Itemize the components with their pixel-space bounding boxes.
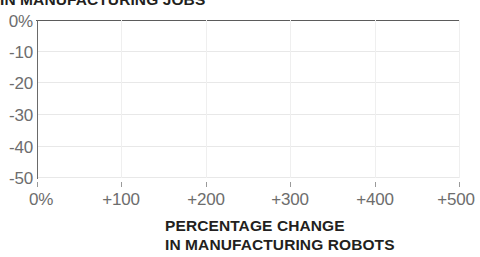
- y-tick-label-40: -40: [0, 138, 33, 158]
- gridline-vertical-0: [37, 20, 38, 178]
- y-tick-label-50: -50: [0, 169, 33, 189]
- x-tick-mark-100: [121, 182, 122, 187]
- x-tick-mark-500: [459, 182, 460, 187]
- x-axis-title-line-2: IN MANUFACTURING ROBOTS: [165, 235, 395, 254]
- gridline-horizontal-30: [37, 114, 460, 115]
- y-tick-label-0: 0%: [0, 12, 33, 32]
- x-axis-title: PERCENTAGE CHANGE IN MANUFACTURING ROBOT…: [165, 216, 395, 254]
- y-axis-tick-labels: 0% -10 -20 -30 -40 -50: [0, 0, 33, 257]
- gridline-vertical-300: [290, 20, 291, 178]
- gridline-horizontal-40: [37, 146, 460, 147]
- x-tick-mark-300: [290, 182, 291, 187]
- plot-area: [37, 20, 460, 178]
- gridline-vertical-400: [375, 20, 376, 178]
- y-axis-title-clipped: IN MANUFACTURING JOBS: [0, 0, 330, 9]
- gridline-horizontal-50: [37, 177, 460, 178]
- x-tick-mark-200: [206, 182, 207, 187]
- x-tick-label-200: +200: [187, 190, 225, 210]
- gridline-horizontal-10: [37, 51, 460, 52]
- gridline-vertical-200: [206, 20, 207, 178]
- x-tick-label-100: +100: [102, 190, 140, 210]
- chart-figure: IN MANUFACTURING JOBS 0% -10 -20 -30 -40…: [0, 0, 480, 257]
- x-axis-title-line-1: PERCENTAGE CHANGE: [165, 216, 395, 235]
- x-tick-label-0: 0%: [29, 190, 53, 210]
- x-tick-label-400: +400: [356, 190, 394, 210]
- y-tick-label-20: -20: [0, 74, 33, 94]
- x-tick-label-300: +300: [271, 190, 309, 210]
- gridline-horizontal-0: [37, 20, 460, 21]
- gridline-vertical-500: [459, 20, 460, 178]
- y-tick-label-30: -30: [0, 106, 33, 126]
- x-tick-mark-400: [375, 182, 376, 187]
- gridline-vertical-100: [121, 20, 122, 178]
- x-tick-mark-0: [37, 182, 38, 187]
- x-tick-label-500: +500: [437, 190, 475, 210]
- y-tick-label-10: -10: [0, 43, 33, 63]
- gridline-horizontal-20: [37, 82, 460, 83]
